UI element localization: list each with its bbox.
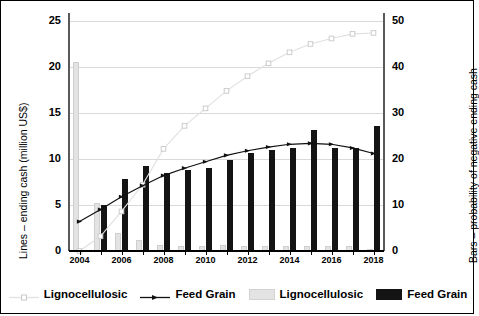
plot-area: 0510152025 01020304050 20042006200820102… bbox=[69, 21, 384, 251]
data-point-marker bbox=[329, 36, 334, 41]
x-tick-label: 2014 bbox=[270, 255, 310, 265]
data-point-marker bbox=[161, 147, 166, 152]
legend-item[interactable]: Lignocellulosic bbox=[9, 288, 128, 300]
right-tick-label: 0 bbox=[392, 244, 422, 256]
left-tick-label: 15 bbox=[31, 106, 61, 118]
data-point-marker bbox=[266, 61, 271, 66]
data-point-marker bbox=[329, 142, 334, 146]
x-tick-mark bbox=[164, 251, 165, 255]
data-point-marker bbox=[308, 141, 313, 145]
x-tick-label: 2018 bbox=[354, 255, 394, 265]
left-tick-label: 10 bbox=[31, 152, 61, 164]
x-tick-label: 2016 bbox=[312, 255, 352, 265]
x-tick-mark bbox=[80, 251, 81, 255]
right-tick-label: 50 bbox=[392, 14, 422, 26]
x-tick-mark bbox=[206, 251, 207, 255]
data-point-marker bbox=[203, 160, 208, 164]
chart-figure: Lines – ending cash (million US$) Bars –… bbox=[0, 0, 474, 314]
x-tick-mark bbox=[332, 251, 333, 255]
line-series bbox=[77, 31, 376, 254]
left-axis-line bbox=[68, 13, 70, 251]
data-point-marker bbox=[98, 234, 103, 239]
x-tick-label: 2010 bbox=[186, 255, 226, 265]
data-point-marker bbox=[203, 106, 208, 111]
right-tick-label: 20 bbox=[392, 152, 422, 164]
x-tick-label: 2012 bbox=[228, 255, 268, 265]
data-point-marker bbox=[182, 124, 187, 129]
legend-label: Lignocellulosic bbox=[44, 288, 128, 300]
right-tick-label: 30 bbox=[392, 106, 422, 118]
left-axis-title: Lines – ending cash (million US$) bbox=[17, 103, 29, 259]
data-point-marker bbox=[182, 166, 187, 170]
data-point-marker bbox=[161, 173, 166, 177]
x-tick-mark bbox=[269, 251, 270, 255]
left-tick-label: 25 bbox=[31, 14, 61, 26]
data-point-marker bbox=[371, 151, 376, 155]
legend-bar-swatch bbox=[376, 289, 402, 300]
data-point-marker bbox=[245, 74, 250, 79]
legend-item[interactable]: Feed Grain bbox=[376, 288, 467, 300]
x-tick-mark bbox=[143, 251, 144, 255]
x-tick-mark bbox=[290, 251, 291, 255]
data-point-marker bbox=[287, 142, 292, 146]
legend-label: Feed Grain bbox=[175, 288, 235, 300]
right-axis-line bbox=[383, 13, 385, 251]
data-point-marker bbox=[350, 146, 355, 150]
legend-item[interactable]: Lignocellulosic bbox=[249, 288, 364, 300]
x-tick-label: 2008 bbox=[144, 255, 184, 265]
left-tick-label: 20 bbox=[31, 60, 61, 72]
legend-line-swatch bbox=[140, 289, 170, 300]
legend-label: Lignocellulosic bbox=[280, 288, 364, 300]
legend-bar-swatch bbox=[249, 289, 275, 300]
data-point-marker bbox=[245, 149, 250, 153]
x-tick-label: 2004 bbox=[60, 255, 100, 265]
legend-label: Feed Grain bbox=[407, 288, 467, 300]
data-point-marker bbox=[224, 153, 229, 157]
left-tick-label: 5 bbox=[31, 198, 61, 210]
data-point-marker bbox=[119, 209, 124, 214]
legend-item[interactable]: Feed Grain bbox=[140, 288, 235, 300]
data-point-marker bbox=[224, 89, 229, 94]
x-tick-mark bbox=[185, 251, 186, 255]
x-tick-mark bbox=[227, 251, 228, 255]
data-point-marker bbox=[308, 42, 313, 47]
left-tick-label: 0 bbox=[31, 244, 61, 256]
x-tick-mark bbox=[311, 251, 312, 255]
data-point-marker bbox=[350, 32, 355, 37]
legend-line-swatch bbox=[9, 289, 39, 300]
data-point-marker bbox=[266, 145, 271, 149]
line-path bbox=[80, 33, 374, 251]
data-point-marker bbox=[287, 50, 292, 55]
x-tick-label: 2006 bbox=[102, 255, 142, 265]
x-tick-mark bbox=[374, 251, 375, 255]
right-tick-label: 40 bbox=[392, 60, 422, 72]
x-tick-mark bbox=[101, 251, 102, 255]
lines-layer bbox=[69, 21, 384, 251]
x-tick-mark bbox=[122, 251, 123, 255]
data-point-marker bbox=[371, 31, 376, 36]
right-axis-title: Bars – probability of negative ending ca… bbox=[467, 68, 479, 263]
x-tick-mark bbox=[353, 251, 354, 255]
chart-legend: LignocellulosicFeed GrainLignocellulosic… bbox=[1, 277, 475, 311]
right-tick-label: 10 bbox=[392, 198, 422, 210]
x-tick-mark bbox=[248, 251, 249, 255]
